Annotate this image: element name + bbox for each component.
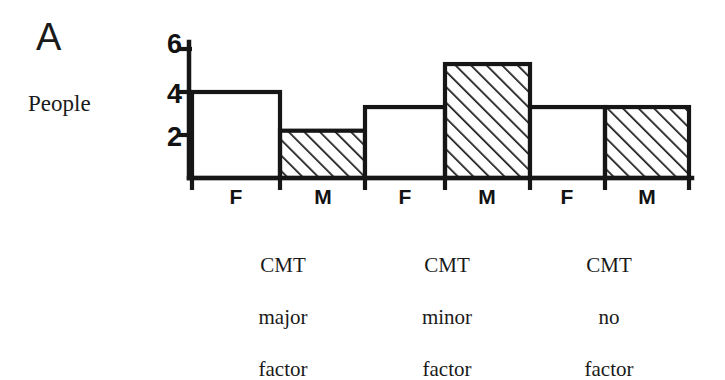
bar-3-f-open <box>365 107 445 178</box>
bar-2-m-hatched <box>280 131 365 178</box>
group-label-line-3: factor <box>372 356 522 380</box>
bar-1-f-open <box>192 92 280 178</box>
bar-4-m-hatched <box>445 64 530 178</box>
group-label-line-3: factor <box>534 356 684 380</box>
bars-group <box>192 64 689 178</box>
bar-6-m-hatched <box>605 107 689 178</box>
bar-5-f-open <box>530 107 605 178</box>
group-label-line-3: factor <box>208 356 358 380</box>
